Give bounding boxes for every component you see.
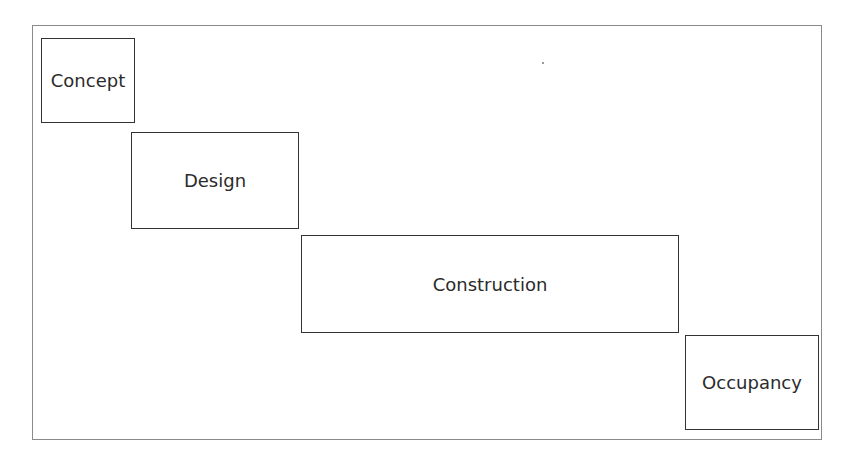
phase-design: Design (131, 132, 299, 229)
phase-label: Construction (433, 274, 548, 295)
phase-label: Design (184, 170, 246, 191)
phase-occupancy: Occupancy (685, 335, 819, 430)
phase-concept: Concept (41, 38, 135, 123)
phase-label: Concept (51, 70, 125, 91)
stray-dot (542, 62, 544, 64)
phase-label: Occupancy (702, 372, 802, 393)
phase-construction: Construction (301, 235, 679, 333)
